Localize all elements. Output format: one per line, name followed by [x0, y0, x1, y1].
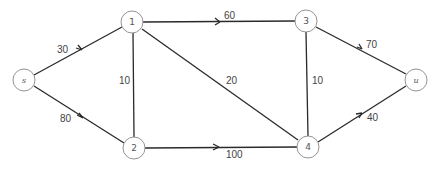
edge-label-s-1: 30: [57, 44, 69, 55]
node-label-2: 2: [131, 143, 137, 153]
edge-label-3-4: 10: [312, 75, 324, 86]
edge-1-2: [133, 33, 134, 137]
node-1: 1: [121, 11, 143, 33]
edge-label-3-u: 70: [366, 39, 378, 50]
edge-1-4: [142, 29, 298, 140]
edge-label-4-u: 40: [367, 112, 379, 123]
edge-s-2: [34, 86, 124, 143]
node-4: 4: [297, 136, 319, 158]
edge-2-4: [145, 147, 297, 148]
node-u: u: [405, 69, 427, 91]
edge-label-s-2: 80: [60, 113, 72, 124]
node-label-s: s: [22, 76, 26, 85]
node-3: 3: [295, 10, 317, 32]
edge-3-u: [316, 27, 406, 74]
node-label-4: 4: [305, 142, 311, 152]
edge-s-1: [34, 27, 122, 75]
node-2: 2: [123, 137, 145, 159]
edge-label-1-4: 20: [226, 75, 238, 86]
node-label-u: u: [413, 76, 418, 85]
edge-label-2-4: 100: [226, 149, 243, 160]
node-label-1: 1: [129, 17, 135, 27]
arrowhead-s-1: [76, 45, 82, 50]
edges: 30 80 10 60 20 100 10 70 40: [34, 10, 406, 160]
node-label-3: 3: [303, 16, 309, 26]
flow-network-diagram: 30 80 10 60 20 100 10 70 40 s 1: [0, 0, 435, 169]
edge-label-1-2: 10: [119, 75, 131, 86]
edge-label-1-3: 60: [224, 10, 236, 21]
node-s: s: [13, 69, 35, 91]
edge-3-4: [306, 32, 308, 136]
